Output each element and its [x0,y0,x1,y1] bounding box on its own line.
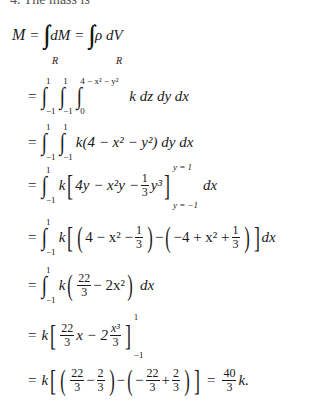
region-R-label: R [52,55,58,66]
equation-line-6: = ∫1−1 k ( 223 − 2x² ) dx [28,269,154,301]
equation-line-5: = ∫1−1 k [( 4 − x² − 13 )−( −4 + x² + 13… [28,221,276,253]
header-fragment: 4. The mass is [10,0,90,8]
equation-line-1: M = ∫∫∫ dM = ∫∫∫ ρ dV [12,22,123,48]
equation-line-2: = ∫1−1 ∫1−1 ∫4 − x² − y²0 k dz dy dx [28,80,189,112]
equation-line-3: = ∫1−1 ∫1−1 k(4 − x² − y²) dy dx [28,126,193,158]
math-derivation: 4. The mass is M = ∫∫∫ dM = ∫∫∫ ρ dV R R… [0,0,311,404]
equation-line-4: = ∫1−1 k [ 4y − x²y − 13 y³ ] y = 1y = −… [28,168,217,202]
equation-line-7: = k [ 223 x − 2 x³3 ] 1−1 [28,318,143,352]
equation-line-8: = k [( 223 − 23 )−( − 223 + 23 )] = 403 … [28,365,249,395]
region-R-label: R [116,55,122,66]
